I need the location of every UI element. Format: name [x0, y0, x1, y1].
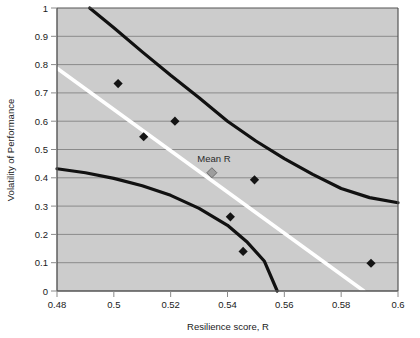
y-axis-label: Volatility of Performance [5, 99, 16, 201]
mean-r-label: Mean R [197, 153, 230, 164]
chart-annotations: Mean R [197, 153, 230, 164]
x-tick-label: 0.6 [391, 299, 404, 310]
x-tick-label: 0.58 [332, 299, 351, 310]
y-tick-label: 0.8 [35, 59, 48, 70]
x-axis-label: Resilience score, R [187, 321, 269, 332]
y-tick-label: 0 [43, 286, 48, 297]
y-tick-label: 0.7 [35, 87, 48, 98]
x-tick-label: 0.56 [275, 299, 294, 310]
x-tick-label: 0.5 [107, 299, 120, 310]
y-tick-label: 0.6 [35, 116, 48, 127]
y-tick-label: 0.4 [35, 172, 48, 183]
y-tick-label: 0.9 [35, 31, 48, 42]
chart-canvas: 0.480.50.520.540.560.580.6 00.10.20.30.4… [0, 0, 420, 338]
y-tick-label: 0.1 [35, 257, 48, 268]
y-tick-label: 1 [43, 3, 48, 14]
y-tick-label: 0.2 [35, 229, 48, 240]
x-tick-label: 0.52 [161, 299, 180, 310]
scatter-chart: 0.480.50.520.540.560.580.6 00.10.20.30.4… [0, 0, 420, 338]
y-tick-label: 0.5 [35, 144, 48, 155]
x-tick-label: 0.48 [48, 299, 67, 310]
y-tick-label: 0.3 [35, 201, 48, 212]
x-tick-label: 0.54 [218, 299, 237, 310]
